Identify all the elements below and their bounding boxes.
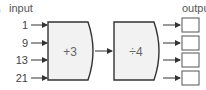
input-label: input — [9, 2, 33, 14]
output-box[interactable] — [182, 36, 199, 50]
output-box[interactable] — [182, 18, 199, 32]
machine-operation: +3 — [63, 45, 77, 59]
function-machine-diagram: , input 1 9 13 21 +3 ÷4 output — [0, 0, 206, 90]
input-value: 13 — [16, 54, 28, 66]
input-value: 21 — [16, 72, 28, 84]
input-value: 9 — [22, 37, 28, 49]
input-value: 1 — [22, 19, 28, 31]
output-box[interactable] — [182, 53, 199, 67]
machine-operation: ÷4 — [129, 45, 143, 59]
cutoff-glyph: , — [0, 1, 1, 13]
output-label: output — [182, 2, 206, 14]
output-box[interactable] — [182, 71, 199, 85]
